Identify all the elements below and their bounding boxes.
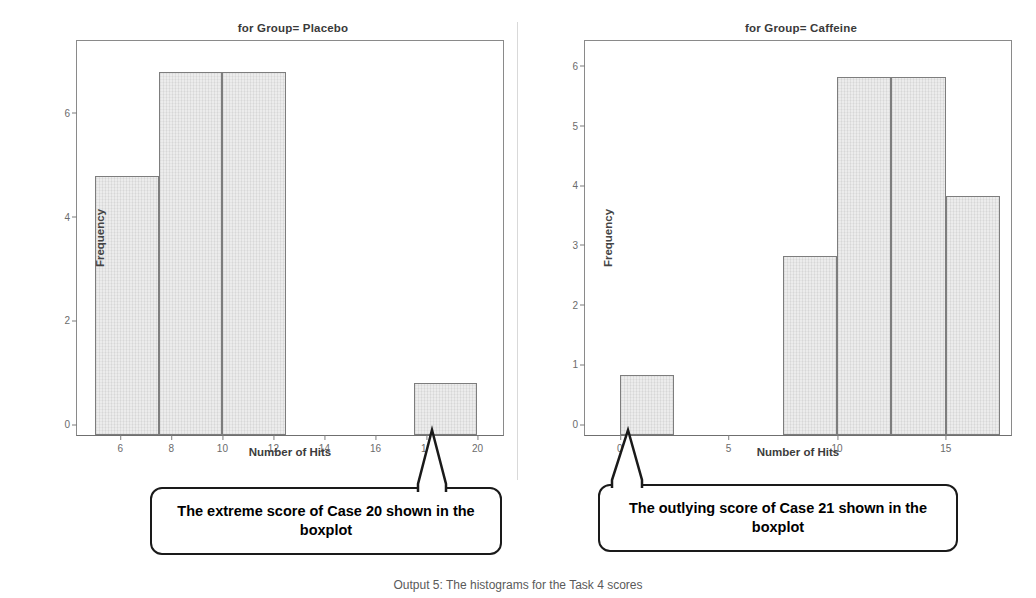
y-axis-tick: 2 xyxy=(572,299,585,310)
panel-title-placebo: for Group= Placebo xyxy=(14,22,514,34)
callout-caffeine-text: The outlying score of Case 21 shown in t… xyxy=(614,499,942,536)
callout-caffeine: The outlying score of Case 21 shown in t… xyxy=(598,484,958,552)
histogram-bar xyxy=(837,77,891,435)
y-axis-tick: 6 xyxy=(572,60,585,71)
y-axis-tick: 0 xyxy=(64,419,77,430)
y-axis-label-placebo: Frequency xyxy=(94,209,106,267)
callout-pointer-placebo xyxy=(398,428,468,492)
histogram-bar xyxy=(891,77,945,435)
y-axis-tick: 0 xyxy=(572,419,585,430)
histogram-bar xyxy=(620,375,674,435)
histogram-panel-caffeine: for Group= Caffeine 0123456051015 Freque… xyxy=(522,22,1022,480)
y-axis-label-caffeine: Frequency xyxy=(602,209,614,267)
y-axis-tick: 1 xyxy=(572,359,585,370)
plot-frame-caffeine: 0123456051015 Frequency xyxy=(584,40,1012,436)
callout-placebo-text: The extreme score of Case 20 shown in th… xyxy=(166,502,486,539)
y-axis-tick: 3 xyxy=(572,239,585,250)
y-axis-tick: 2 xyxy=(64,315,77,326)
y-axis-tick: 4 xyxy=(572,180,585,191)
histogram-bar xyxy=(946,196,1000,435)
histogram-bar xyxy=(222,72,286,435)
histogram-bar xyxy=(159,72,223,435)
y-axis-tick: 5 xyxy=(572,120,585,131)
panel-divider xyxy=(517,22,518,480)
callout-placebo: The extreme score of Case 20 shown in th… xyxy=(150,487,502,555)
figure-container: for Group= Placebo 024668101214161820 Fr… xyxy=(0,0,1036,598)
histogram-panel-placebo: for Group= Placebo 024668101214161820 Fr… xyxy=(14,22,514,480)
y-axis-tick: 6 xyxy=(64,107,77,118)
plot-frame-placebo: 024668101214161820 Frequency xyxy=(76,40,504,436)
plot-area-caffeine: 0123456051015 xyxy=(585,41,1011,435)
histogram-bar xyxy=(783,256,837,435)
panel-title-caffeine: for Group= Caffeine xyxy=(522,22,1022,34)
callout-pointer-caffeine xyxy=(600,428,670,488)
y-axis-tick: 4 xyxy=(64,211,77,222)
figure-caption: Output 5: The histograms for the Task 4 … xyxy=(0,578,1036,592)
plot-area-placebo: 024668101214161820 xyxy=(77,41,503,435)
